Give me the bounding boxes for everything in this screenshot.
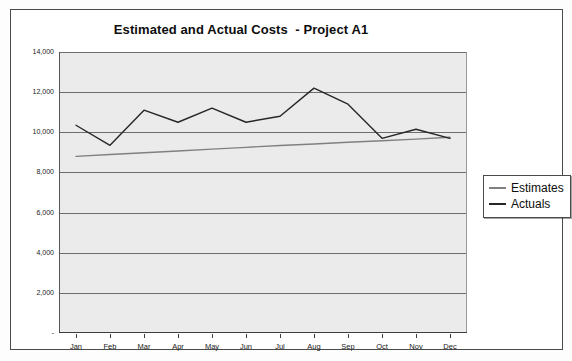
x-axis-tick-label: May xyxy=(205,342,219,351)
y-axis-tick-label: 10,000 xyxy=(33,128,54,136)
x-axis-tick xyxy=(212,334,213,338)
legend-item-estimates[interactable]: Estimates xyxy=(489,180,565,196)
y-axis-tick-label: 8,000 xyxy=(36,168,54,176)
x-axis-tick-label: Feb xyxy=(104,342,117,351)
x-axis-tick xyxy=(314,334,315,338)
y-axis-tick-label: 2,000 xyxy=(36,289,54,297)
series-line-actuals xyxy=(76,88,450,145)
series-line-estimates xyxy=(76,137,450,156)
plot-wrap xyxy=(59,52,467,343)
x-axis-tick xyxy=(76,334,77,338)
x-axis-tick-label: Mar xyxy=(138,342,151,351)
x-axis-tick-label: Aug xyxy=(307,342,320,351)
legend-line-icon xyxy=(489,187,506,189)
x-axis-tick xyxy=(246,334,247,338)
x-axis-tick xyxy=(110,334,111,338)
x-axis-tick-label: Apr xyxy=(172,342,184,351)
x-axis-tick-label: Sep xyxy=(341,342,354,351)
y-axis-tick-label: - xyxy=(52,329,54,337)
x-axis-tick xyxy=(144,334,145,338)
x-axis-labels: JanFebMarAprMayJunJulAugSepOctNovDec xyxy=(59,334,469,354)
series-layer xyxy=(59,52,467,333)
x-axis-tick xyxy=(382,334,383,338)
legend-item-label: Actuals xyxy=(511,197,550,211)
chart-legend: EstimatesActuals xyxy=(483,175,571,218)
x-axis-tick-label: Jul xyxy=(275,342,285,351)
x-axis-tick xyxy=(416,334,417,338)
y-axis-labels: -2,0004,0006,0008,00010,00012,00014,000 xyxy=(19,52,54,343)
y-axis-tick-label: 4,000 xyxy=(36,249,54,257)
chart-page: Estimated and Actual Costs - Project A1 … xyxy=(0,0,572,361)
x-axis-tick xyxy=(450,334,451,338)
y-axis-tick-label: 12,000 xyxy=(33,88,54,96)
y-axis-tick-label: 14,000 xyxy=(33,48,54,56)
legend-item-label: Estimates xyxy=(511,181,564,195)
y-axis-tick-label: 6,000 xyxy=(36,209,54,217)
x-axis-tick-label: Dec xyxy=(443,342,456,351)
chart-frame: Estimated and Actual Costs - Project A1 … xyxy=(10,9,563,350)
x-axis-tick xyxy=(280,334,281,338)
x-axis-tick-label: Jan xyxy=(70,342,82,351)
x-axis-tick xyxy=(178,334,179,338)
legend-item-actuals[interactable]: Actuals xyxy=(489,196,565,212)
x-axis-tick-label: Oct xyxy=(376,342,388,351)
legend-line-icon xyxy=(489,203,506,205)
chart-title: Estimated and Actual Costs - Project A1 xyxy=(11,22,471,37)
x-axis-tick-label: Jun xyxy=(240,342,252,351)
x-axis-tick-label: Nov xyxy=(409,342,422,351)
x-axis-tick xyxy=(348,334,349,338)
